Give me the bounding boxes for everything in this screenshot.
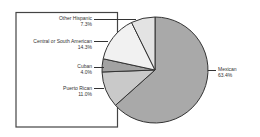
label-cuban-value: 4.0% — [77, 69, 92, 75]
label-cuban: Cuban 4.0% — [77, 63, 92, 75]
label-mexican-value: 63.4% — [218, 72, 237, 78]
label-other-hispanic-value: 7.3% — [59, 21, 92, 27]
pie-slices — [102, 17, 208, 123]
label-puerto-rican-value: 11.0% — [63, 91, 92, 97]
label-mexican: Mexican 63.4% — [218, 66, 237, 78]
label-central-south-american: Central or South American 14.3% — [33, 38, 92, 50]
label-other-hispanic: Other Hispanic 7.3% — [59, 15, 92, 27]
label-central-south-american-value: 14.3% — [33, 44, 92, 50]
label-puerto-rican: Puerto Rican 11.0% — [63, 85, 92, 97]
